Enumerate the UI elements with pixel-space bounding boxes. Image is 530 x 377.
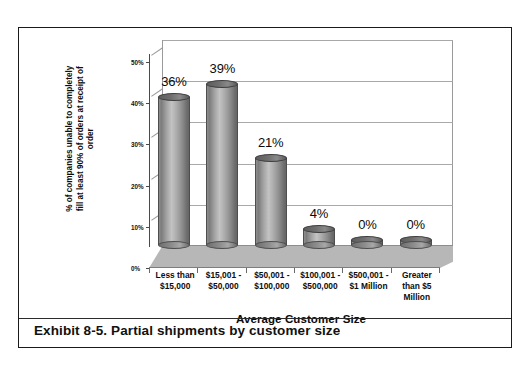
bar-value-label: 0% [393, 217, 439, 232]
bar-value-label: 21% [248, 135, 294, 150]
x-category-label-line: Million [388, 292, 446, 303]
y-tick-label: 50% [131, 59, 144, 66]
bar-bottom-ellipse [351, 241, 383, 249]
y-tick-label: 10% [131, 223, 144, 230]
bar[interactable] [255, 158, 287, 245]
y-axis-title-line-2: fill at least 90% of orders at receipt o… [76, 39, 87, 239]
bar-value-label: 0% [344, 217, 390, 232]
bar-bottom-ellipse [303, 241, 335, 249]
x-category-label-line: than $5 [388, 281, 446, 292]
bar-series: 36%39%21%4%0%0% [149, 40, 453, 268]
bar-value-label: 36% [151, 74, 197, 89]
bar-bottom-ellipse [400, 241, 432, 249]
plot-area: 0%10%20%30%40%50% 36%39%21%4%0%0% [149, 40, 453, 255]
bar-top-ellipse [303, 225, 335, 233]
y-axis-title: % of companies unable to completely fill… [65, 39, 97, 239]
figure-caption: Exhibit 8-5. Partial shipments by custom… [34, 323, 340, 340]
bar-value-label: 4% [296, 206, 342, 221]
bar-bottom-ellipse [255, 241, 287, 249]
bar-bottom-ellipse [158, 241, 190, 249]
y-tick-label: 0% [131, 265, 140, 272]
y-tick-label: 40% [131, 100, 144, 107]
caption-divider [19, 318, 511, 319]
y-tick-label: 30% [131, 141, 144, 148]
x-category-label-line: Greater [388, 270, 446, 281]
bar[interactable] [303, 229, 335, 245]
bar-top-ellipse [158, 93, 190, 101]
bar-top-ellipse [255, 154, 287, 162]
y-axis-title-line-1: % of companies unable to completely [65, 39, 76, 239]
y-tick-label: 20% [131, 182, 144, 189]
bar[interactable] [158, 97, 190, 245]
bar[interactable] [351, 240, 383, 245]
x-axis-category-labels: Less than$15,000$15,001 -$50,000$50,001 … [149, 270, 453, 312]
chart-canvas: % of companies unable to completely fill… [18, 27, 512, 318]
bar-bottom-ellipse [206, 241, 238, 249]
bar-value-label: 39% [199, 61, 245, 76]
bar-top-ellipse [206, 80, 238, 88]
bar[interactable] [206, 84, 238, 245]
y-axis-title-line-3: order [86, 39, 97, 239]
x-category-label: Greaterthan $5Million [388, 270, 446, 303]
bar[interactable] [400, 240, 432, 245]
